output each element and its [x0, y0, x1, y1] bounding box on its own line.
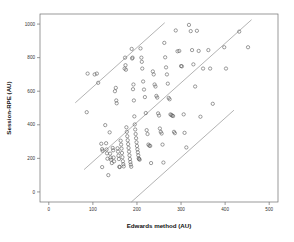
x-tick-label: 300	[177, 207, 185, 212]
y-tick-label: 1000	[25, 22, 36, 27]
x-tick-label: 500	[265, 207, 273, 212]
figure-background	[0, 0, 294, 242]
plot-canvas: 0100200300400500 02004006008001000 Edwar…	[0, 0, 294, 242]
y-tick-label: 400	[27, 122, 35, 127]
x-tick-label: 200	[133, 207, 141, 212]
x-tick-label: 100	[89, 207, 97, 212]
x-axis-title: Edwards method (AU)	[127, 222, 192, 229]
y-tick-label: 0	[32, 190, 35, 195]
x-tick-label: 400	[221, 207, 229, 212]
x-tick-label: 0	[48, 207, 51, 212]
scatter-plot-figure: 0100200300400500 02004006008001000 Edwar…	[0, 0, 294, 242]
y-tick-label: 600	[27, 89, 35, 94]
y-tick-label: 200	[27, 156, 35, 161]
y-axis-title: Session-RPE (AU)	[5, 81, 12, 134]
y-tick-label: 800	[27, 55, 35, 60]
